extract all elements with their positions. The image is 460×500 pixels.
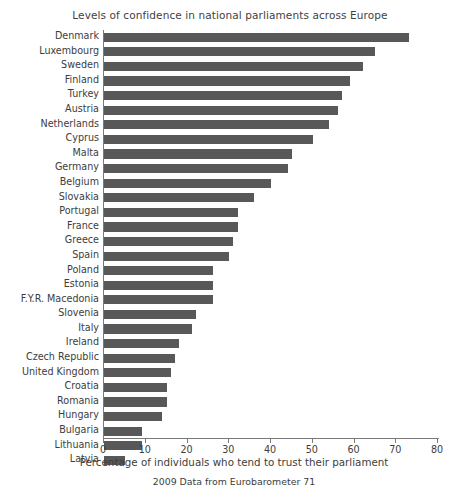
category-label: United Kingdom bbox=[22, 365, 99, 380]
bar-row: Belgium bbox=[104, 176, 438, 191]
x-tick-label: 0 bbox=[100, 444, 106, 455]
category-label: Bulgaria bbox=[59, 423, 99, 438]
x-tick-label: 60 bbox=[347, 444, 359, 455]
bar bbox=[104, 149, 292, 158]
bar-row: United Kingdom bbox=[104, 366, 438, 381]
bar-row: Czech Republic bbox=[104, 351, 438, 366]
category-label: Finland bbox=[65, 73, 99, 88]
category-label: Slovenia bbox=[58, 306, 99, 321]
bar bbox=[104, 222, 238, 231]
category-label: Italy bbox=[78, 321, 99, 336]
bar bbox=[104, 266, 213, 275]
category-label: Malta bbox=[73, 146, 99, 161]
category-label: Portugal bbox=[59, 204, 99, 219]
bar bbox=[104, 324, 192, 333]
bar-row: Italy bbox=[104, 322, 438, 337]
x-tick bbox=[228, 439, 229, 443]
bar bbox=[104, 47, 375, 56]
category-label: Netherlands bbox=[41, 117, 99, 132]
x-tick bbox=[103, 439, 104, 443]
bar-row: Sweden bbox=[104, 59, 438, 74]
bar bbox=[104, 106, 338, 115]
x-tick-label: 20 bbox=[180, 444, 192, 455]
bar-row: Cyprus bbox=[104, 132, 438, 147]
category-label: Romania bbox=[57, 394, 99, 409]
chart-figure: Levels of confidence in national parliam… bbox=[0, 0, 460, 500]
x-tick bbox=[312, 439, 313, 443]
bar bbox=[104, 91, 342, 100]
category-label: France bbox=[67, 219, 99, 234]
bar-row: Estonia bbox=[104, 278, 438, 293]
category-label: Austria bbox=[65, 102, 99, 117]
bar-row: Hungary bbox=[104, 409, 438, 424]
category-label: Cyprus bbox=[66, 131, 100, 146]
bar-row: Turkey bbox=[104, 88, 438, 103]
category-label: Greece bbox=[65, 233, 99, 248]
x-tick bbox=[354, 439, 355, 443]
category-label: Hungary bbox=[58, 408, 99, 423]
bar-row: Malta bbox=[104, 147, 438, 162]
bar-row: F.Y.R. Macedonia bbox=[104, 293, 438, 308]
category-label: F.Y.R. Macedonia bbox=[21, 292, 99, 307]
bar-row: Luxembourg bbox=[104, 45, 438, 60]
category-label: Estonia bbox=[64, 277, 99, 292]
x-tick-label: 80 bbox=[431, 444, 443, 455]
bar-row: Germany bbox=[104, 161, 438, 176]
x-tick bbox=[187, 439, 188, 443]
bar-row: Netherlands bbox=[104, 118, 438, 133]
x-axis-title-text: Percentage of individuals who tend to tr… bbox=[80, 456, 389, 468]
bar-row: Austria bbox=[104, 103, 438, 118]
bar bbox=[104, 412, 162, 421]
category-label: Sweden bbox=[61, 58, 99, 73]
bar-row: Ireland bbox=[104, 336, 438, 351]
x-tick-label: 50 bbox=[306, 444, 318, 455]
plot-area: DenmarkLuxembourgSwedenFinlandTurkeyAust… bbox=[104, 30, 438, 439]
bar bbox=[104, 339, 179, 348]
bar bbox=[104, 76, 350, 85]
source-note-text: 2009 Data from Eurobarometer 71 bbox=[153, 476, 315, 487]
x-tick-label: 40 bbox=[264, 444, 276, 455]
bar bbox=[104, 368, 171, 377]
bar bbox=[104, 310, 196, 319]
category-label: Poland bbox=[67, 263, 99, 278]
bar bbox=[104, 237, 233, 246]
bar bbox=[104, 62, 363, 71]
x-tick bbox=[395, 439, 396, 443]
bar-row: Denmark bbox=[104, 30, 438, 45]
x-axis-title: Percentage of individuals who tend to tr… bbox=[0, 456, 460, 468]
x-tick-label: 70 bbox=[389, 444, 401, 455]
bar bbox=[104, 383, 167, 392]
bar bbox=[104, 252, 229, 261]
bar-row: Greece bbox=[104, 234, 438, 249]
bar bbox=[104, 120, 329, 129]
x-tick-label: 10 bbox=[139, 444, 151, 455]
category-label: Turkey bbox=[68, 87, 99, 102]
bar bbox=[104, 427, 142, 436]
category-label: Spain bbox=[72, 248, 99, 263]
category-label: Denmark bbox=[55, 29, 99, 44]
category-label: Czech Republic bbox=[26, 350, 99, 365]
bar-row: Portugal bbox=[104, 205, 438, 220]
bar-row: Spain bbox=[104, 249, 438, 264]
category-label: Slovakia bbox=[59, 190, 99, 205]
bar-rows: DenmarkLuxembourgSwedenFinlandTurkeyAust… bbox=[104, 30, 438, 439]
bar-row: Finland bbox=[104, 74, 438, 89]
x-tick-label: 30 bbox=[222, 444, 234, 455]
bar bbox=[104, 281, 213, 290]
bar bbox=[104, 179, 271, 188]
bar bbox=[104, 295, 213, 304]
bar-row: Poland bbox=[104, 264, 438, 279]
bar bbox=[104, 135, 313, 144]
category-label: Luxembourg bbox=[39, 44, 99, 59]
x-tick bbox=[145, 439, 146, 443]
bar bbox=[104, 208, 238, 217]
bar bbox=[104, 354, 175, 363]
category-label: Croatia bbox=[65, 379, 100, 394]
bar-row: Slovenia bbox=[104, 307, 438, 322]
bar-row: Croatia bbox=[104, 380, 438, 395]
category-label: Ireland bbox=[66, 335, 99, 350]
bar-row: Slovakia bbox=[104, 191, 438, 206]
bar bbox=[104, 193, 254, 202]
bar bbox=[104, 397, 167, 406]
category-label: Belgium bbox=[60, 175, 99, 190]
